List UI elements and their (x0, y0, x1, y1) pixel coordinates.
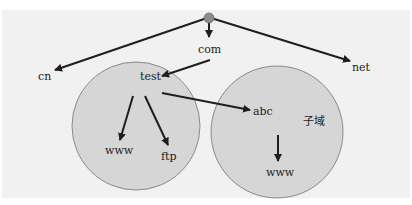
edge-com-test (162, 60, 210, 76)
edge-root-net (211, 18, 350, 61)
node-www: www (105, 145, 133, 156)
node-abc: abc (253, 106, 273, 117)
node-test: test (140, 71, 161, 82)
node-subdomain-www: www (266, 167, 294, 178)
test-zone-circle (72, 62, 200, 190)
root-node (204, 13, 214, 23)
subdomain-label: 子域 (303, 116, 325, 127)
node-cn: cn (38, 71, 51, 82)
node-ftp: ftp (161, 151, 177, 162)
node-net: net (352, 62, 370, 73)
diagram-graphics (0, 0, 412, 205)
node-com: com (198, 44, 221, 55)
diagram-canvas: cn com net test www ftp abc 子域 www (0, 0, 412, 205)
